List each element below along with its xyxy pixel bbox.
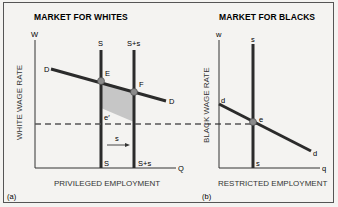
supply-label-S-top: S bbox=[98, 39, 103, 48]
panel-a-y-label: WHITE WAGE RATE bbox=[15, 65, 24, 140]
panel-b: MARKET FOR BLACKS w q BLACK WAGE RATE RE… bbox=[202, 12, 327, 201]
point-E-label: E bbox=[105, 69, 110, 78]
arrow-head-icon bbox=[125, 143, 130, 147]
panel-b-tag: (b) bbox=[202, 192, 212, 201]
panel-a: MARKET FOR WHITES W Q WHITE WAGE RATE PR… bbox=[7, 12, 184, 201]
panel-a-x-label: PRIVILEGED EMPLOYMENT bbox=[54, 179, 160, 188]
supply-label-s-top: s bbox=[251, 35, 255, 44]
panel-b-title: MARKET FOR BLACKS bbox=[219, 12, 315, 22]
panel-a-tag: (a) bbox=[7, 192, 17, 201]
shift-arrow-label: s bbox=[115, 134, 119, 143]
demand-label-d-left: d bbox=[221, 96, 225, 105]
point-F-label: F bbox=[139, 80, 144, 89]
point-e-prime-label: e′ bbox=[104, 113, 110, 122]
wage-discrimination-diagram: MARKET FOR WHITES W Q WHITE WAGE RATE PR… bbox=[0, 0, 338, 207]
panel-a-y-symbol: W bbox=[31, 30, 39, 39]
demand-label-d-right: d bbox=[313, 149, 317, 158]
panel-a-x-symbol: Q bbox=[178, 164, 184, 173]
demand-line-d bbox=[219, 104, 311, 151]
demand-label-D-left: D bbox=[44, 65, 50, 74]
panel-b-x-symbol: q bbox=[322, 164, 326, 173]
supply-label-Ss-bottom: S+s bbox=[138, 159, 151, 168]
panel-b-x-label: RESTRICTED EMPLOYMENT bbox=[218, 179, 327, 188]
supply-label-Ss-top: S+s bbox=[127, 39, 140, 48]
supply-label-s-bottom: s bbox=[256, 159, 260, 168]
panel-b-y-label: BLACK WAGE RATE bbox=[202, 67, 211, 143]
equilibrium-point-e bbox=[250, 119, 257, 126]
equilibrium-point-F bbox=[131, 89, 138, 96]
equilibrium-point-E bbox=[98, 78, 105, 85]
demand-label-D-right: D bbox=[169, 97, 175, 106]
supply-label-S-bottom: S bbox=[104, 159, 109, 168]
point-e-label: e bbox=[259, 115, 263, 124]
panel-b-y-symbol: w bbox=[215, 30, 222, 39]
panel-a-title: MARKET FOR WHITES bbox=[34, 12, 128, 22]
